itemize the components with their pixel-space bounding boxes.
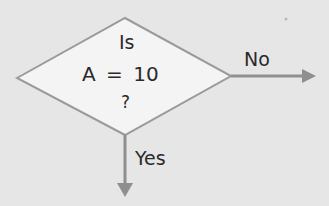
flowchart-canvas bbox=[0, 0, 329, 206]
decision-text-line1: Is bbox=[119, 33, 135, 52]
speck-dot bbox=[285, 18, 288, 21]
no-arrowhead-icon bbox=[302, 69, 316, 83]
decision-text-line3: ? bbox=[121, 94, 130, 111]
yes-arrowhead-icon bbox=[117, 183, 133, 197]
decision-text-line2: A = 10 bbox=[82, 64, 159, 84]
no-branch-label: No bbox=[244, 50, 270, 69]
yes-branch-label: Yes bbox=[135, 149, 166, 168]
